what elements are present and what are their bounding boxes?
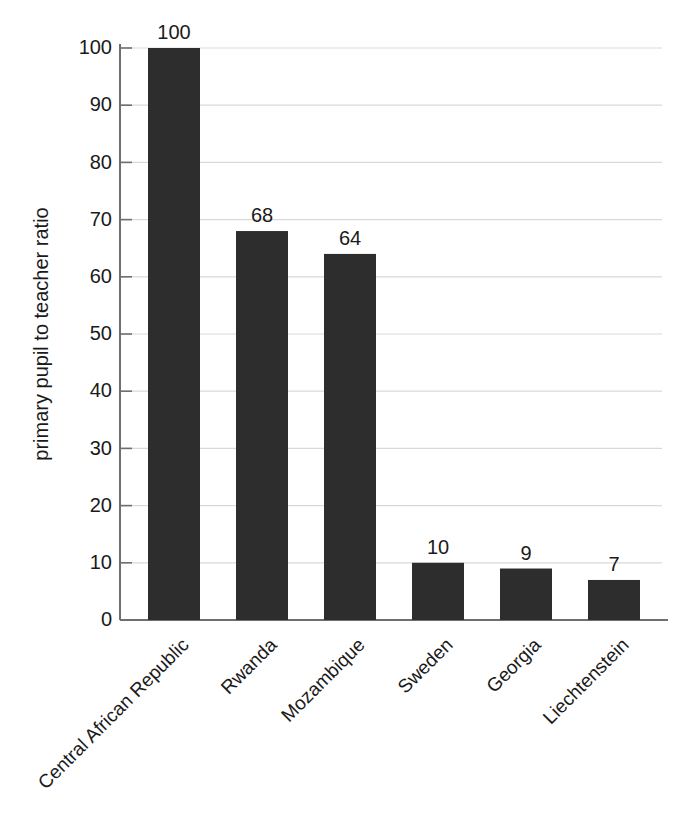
bar-value-label: 9: [520, 542, 531, 564]
y-axis-tick-labels: 0102030405060708090100: [79, 36, 112, 630]
x-axis-category-label: Central African Republic: [34, 634, 193, 793]
bar-value-label: 7: [608, 553, 619, 575]
y-axis-tick-label: 30: [90, 437, 112, 459]
bar-chart: 0102030405060708090100 10068641097 Centr…: [0, 0, 676, 827]
gridlines: [120, 48, 662, 563]
y-axis-tick-label: 50: [90, 322, 112, 344]
bar-value-labels: 10068641097: [157, 21, 619, 575]
y-axis-title: primary pupil to teacher ratio: [30, 207, 52, 460]
bar-value-label: 100: [157, 21, 190, 43]
bar: [148, 48, 200, 620]
bar: [500, 569, 552, 620]
y-axis-ticks: [120, 48, 132, 620]
bar: [588, 580, 640, 620]
y-axis-tick-label: 90: [90, 93, 112, 115]
y-axis-tick-label: 0: [101, 608, 112, 630]
y-axis-tick-label: 60: [90, 265, 112, 287]
x-axis-category-label: Liechtenstein: [539, 634, 633, 728]
bar-value-label: 68: [251, 204, 273, 226]
y-axis-tick-label: 20: [90, 494, 112, 516]
bar-value-label: 64: [339, 227, 361, 249]
x-axis-category-labels: Central African RepublicRwandaMozambique…: [34, 634, 633, 793]
y-axis-tick-label: 10: [90, 551, 112, 573]
y-axis-tick-label: 100: [79, 36, 112, 58]
bar: [324, 254, 376, 620]
y-axis-tick-label: 70: [90, 208, 112, 230]
y-axis-tick-label: 40: [90, 379, 112, 401]
chart-canvas: 0102030405060708090100 10068641097 Centr…: [0, 0, 676, 827]
x-axis-category-label: Mozambique: [277, 634, 369, 726]
bar: [236, 231, 288, 620]
bar: [412, 563, 464, 620]
bar-value-label: 10: [427, 536, 449, 558]
x-axis-category-label: Rwanda: [217, 634, 281, 698]
y-axis-tick-label: 80: [90, 151, 112, 173]
x-axis-category-label: Sweden: [393, 634, 456, 697]
x-axis-category-label: Georgia: [482, 634, 545, 697]
